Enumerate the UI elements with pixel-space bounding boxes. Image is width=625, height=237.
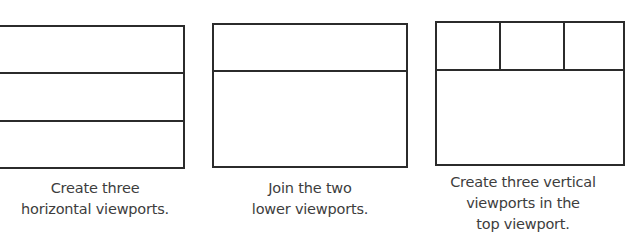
- vertical-divider: [563, 23, 565, 71]
- caption-line: Create three vertical: [437, 172, 609, 193]
- caption-step-2: Join the two lower viewports.: [225, 178, 395, 220]
- horizontal-divider: [437, 69, 623, 71]
- caption-line: top viewport.: [437, 214, 609, 235]
- viewport-diagram-joined-lower: [212, 23, 408, 168]
- caption-line: Join the two: [225, 178, 395, 199]
- caption-line: lower viewports.: [225, 199, 395, 220]
- caption-step-3: Create three vertical viewports in the t…: [437, 172, 609, 235]
- caption-line: horizontal viewports.: [10, 199, 180, 220]
- caption-step-1: Create three horizontal viewports.: [10, 178, 180, 220]
- horizontal-divider: [214, 70, 406, 72]
- horizontal-divider: [0, 120, 183, 122]
- viewport-diagram-three-vertical-top: [435, 21, 625, 166]
- horizontal-divider: [0, 72, 183, 74]
- viewport-diagram-three-horizontal: [0, 25, 185, 169]
- vertical-divider: [499, 23, 501, 71]
- caption-line: Create three: [10, 178, 180, 199]
- caption-line: viewports in the: [437, 193, 609, 214]
